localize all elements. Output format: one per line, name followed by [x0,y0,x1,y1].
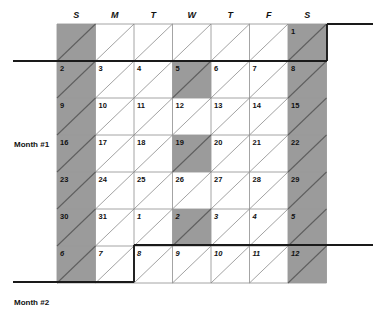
day-number: 19 [176,138,184,147]
day-header-4: T [228,10,235,20]
day-header-6: S [304,10,310,20]
day-number: 22 [291,138,299,147]
day-number: 3 [99,64,103,73]
day-number: 7 [253,64,257,73]
day-number: 8 [291,64,295,73]
day-number: 26 [176,175,184,184]
day-number: 16 [60,138,68,147]
day-number: 1 [137,212,141,221]
day-number: 13 [214,101,222,110]
day-header-3: W [188,10,198,20]
day-number: 2 [175,212,181,221]
day-number: 4 [252,212,258,221]
day-number: 21 [253,138,261,147]
day-number: 2 [60,64,64,73]
day-header-1: M [111,10,119,20]
day-number: 30 [60,212,68,221]
day-number: 6 [214,64,218,73]
month-label-second: Month #2 [14,298,50,307]
day-number: 28 [253,175,261,184]
calendar-diagram: 1234567891011121314151617181920212223242… [0,0,383,331]
day-number: 31 [99,212,107,221]
calendar-svg: 1234567891011121314151617181920212223242… [0,0,383,331]
month-label-first: Month #1 [14,140,50,149]
day-header-0: S [73,10,79,20]
day-number: 20 [214,138,222,147]
day-number: 27 [214,175,222,184]
day-number: 25 [137,175,145,184]
day-header-2: T [151,10,158,20]
day-header-5: F [266,10,272,20]
day-number: 10 [214,249,223,258]
day-number: 24 [99,175,108,184]
day-number: 5 [176,64,180,73]
day-number: 14 [253,101,262,110]
day-headers-layer: SMTWTFS [73,10,310,20]
day-number: 9 [60,101,64,110]
day-number: 23 [60,175,68,184]
day-number: 29 [291,175,299,184]
day-number: 18 [137,138,145,147]
day-number: 12 [291,249,300,258]
day-number: 15 [291,101,299,110]
day-number: 10 [99,101,107,110]
day-number: 17 [99,138,107,147]
day-number: 11 [253,249,261,258]
day-number: 1 [291,27,295,36]
day-number: 11 [137,101,145,110]
day-number: 12 [176,101,184,110]
